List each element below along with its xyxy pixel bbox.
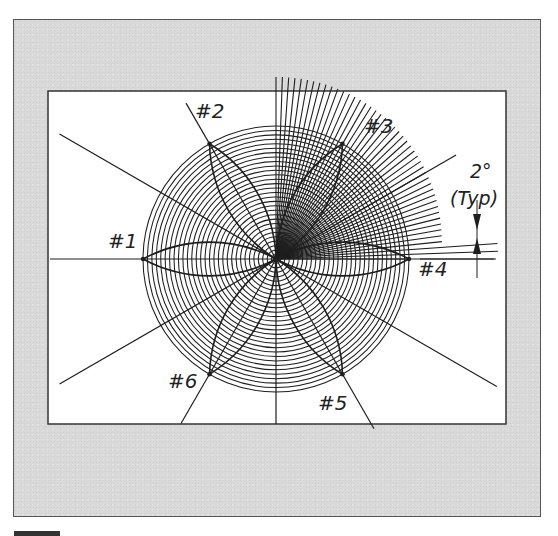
point-label-5: #5 bbox=[318, 391, 347, 415]
petal-point bbox=[141, 257, 145, 261]
center-point bbox=[273, 256, 279, 262]
petal-point bbox=[407, 257, 411, 261]
point-label-6: #6 bbox=[168, 369, 197, 393]
petal-point bbox=[340, 372, 344, 376]
point-label-3: #3 bbox=[364, 114, 393, 138]
point-label-1: #1 bbox=[108, 229, 137, 253]
angle-dimension-typ: (Typ) bbox=[450, 187, 498, 209]
petal-point bbox=[207, 372, 211, 376]
petal-point bbox=[340, 142, 344, 146]
angle-dimension-value: 2° bbox=[470, 160, 492, 182]
point-label-2: #2 bbox=[195, 99, 224, 123]
petal-point bbox=[207, 142, 211, 146]
construction-drawing: #1#2#3#4#5#6 2° (Typ) bbox=[0, 0, 558, 536]
point-label-4: #4 bbox=[418, 257, 447, 281]
